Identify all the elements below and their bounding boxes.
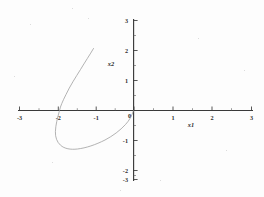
x-tick-label--3: -3 [17, 114, 22, 121]
phase-portrait-chart: -3 -2 -1 1 2 3 x1 3 2 1 0 -1 [0, 0, 264, 197]
paper-noise [14, 8, 245, 191]
x-axis-title: x1 [187, 121, 194, 128]
trajectory-curve [55, 49, 133, 150]
y-tick-label-3: 3 [125, 17, 128, 24]
y-tick-label--3: -3 [123, 176, 128, 183]
x-tick-label--1: -1 [94, 114, 99, 121]
chart-screenshot: -3 -2 -1 1 2 3 x1 3 2 1 0 -1 [0, 0, 264, 197]
y-tick-label-1: 1 [125, 77, 128, 84]
x-tick-label-2: 2 [210, 114, 213, 121]
y-axis-title: x2 [107, 60, 115, 67]
y-tick-label--1: -1 [123, 137, 128, 144]
trajectory-curve-group [55, 49, 133, 150]
y-tick-label--2: -2 [123, 167, 128, 174]
y-tick-label-2: 2 [125, 47, 128, 54]
x-tick-label-1: 1 [171, 114, 174, 121]
x-axis-group: -3 -2 -1 1 2 3 x1 [17, 107, 253, 129]
y-axis-group: 3 2 1 0 -1 -2 -3 x2 [107, 17, 138, 183]
x-tick-label-3: 3 [250, 114, 253, 121]
